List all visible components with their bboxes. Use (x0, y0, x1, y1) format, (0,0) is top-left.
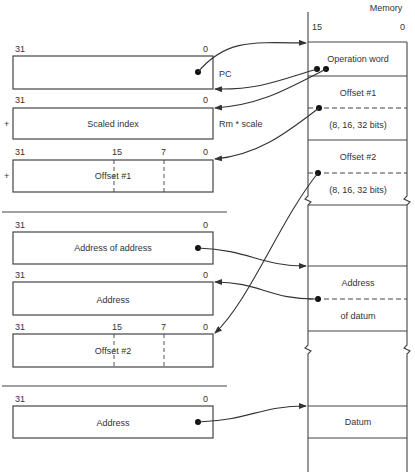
addressing-mode-diagram: Memory 15 0 Operation word Offset #1 (8,… (0, 0, 415, 475)
offset1-bit-15: 15 (112, 147, 122, 157)
memory-bit-low: 0 (400, 22, 405, 32)
aoa-bit-low: 0 (203, 220, 208, 230)
aoa-bit-high: 31 (15, 220, 25, 230)
offset1-bit-7: 7 (161, 147, 166, 157)
register-final-address: 31 0 Address (13, 394, 213, 438)
memory-bit-high: 15 (312, 22, 322, 32)
register-offset1: 31 15 7 0 + Offset #1 (4, 147, 213, 192)
memory-column: Memory 15 0 Operation word Offset #1 (8,… (305, 3, 410, 472)
register-address-of-address: 31 0 Address of address (13, 220, 213, 264)
offset1-bit-low: 0 (203, 147, 208, 157)
rm-scale-label: Rm * scale (219, 119, 263, 129)
scaled-index-bit-low: 0 (203, 95, 208, 105)
memory-cell-datum: Datum (345, 417, 372, 427)
memory-cell-address-of-datum-bottom: of datum (340, 311, 375, 321)
address-bit-high: 31 (15, 270, 25, 280)
pointer-arrows (195, 43, 329, 425)
arrow-pc-to-memory (198, 43, 306, 72)
arrow-memory-to-address (215, 282, 318, 299)
memory-left-wall (305, 12, 311, 472)
offset1-label: Offset #1 (95, 171, 131, 181)
arrow-aoa-to-memory (198, 248, 306, 266)
final-address-label: Address (96, 418, 130, 428)
scaled-index-label: Scaled index (87, 119, 139, 129)
memory-cell-offset1-bottom: (8, 16, 32 bits) (329, 120, 387, 130)
memory-cell-offset2-top: Offset #2 (340, 152, 376, 162)
offset1-bit-high: 31 (15, 147, 25, 157)
scaled-index-plus: + (4, 119, 9, 129)
scaled-index-bit-high: 31 (15, 95, 25, 105)
offset1-plus: + (4, 171, 9, 181)
address-label: Address (96, 295, 130, 305)
offset2-label: Offset #2 (95, 346, 131, 356)
register-address: 31 0 Address (13, 270, 213, 315)
memory-cell-address-of-datum-top: Address (341, 278, 375, 288)
pc-bit-low: 0 (203, 44, 208, 54)
register-pc: 31 0 PC (13, 44, 232, 89)
offset2-bit-high: 31 (15, 322, 25, 332)
memory-cell-offset1-top: Offset #1 (340, 88, 376, 98)
arrow-offset1 (215, 108, 319, 159)
memory-right-wall (404, 42, 410, 472)
final-address-bit-high: 31 (15, 394, 25, 404)
offset2-bit-7: 7 (161, 322, 166, 332)
offset2-bit-15: 15 (112, 322, 122, 332)
memory-cell-operation-word: Operation word (327, 54, 389, 64)
pc-bit-high: 31 (15, 44, 25, 54)
offset2-bit-low: 0 (203, 322, 208, 332)
arrow-address-to-datum (198, 406, 306, 422)
register-scaled-index: 31 0 + Scaled index Rm * scale (4, 95, 263, 139)
aoa-label: Address of address (74, 243, 152, 253)
address-bit-low: 0 (203, 270, 208, 280)
arrow-offset2 (215, 173, 318, 333)
memory-title: Memory (370, 3, 403, 13)
memory-cell-offset2-bottom: (8, 16, 32 bits) (329, 185, 387, 195)
register-offset2: 31 15 7 0 Offset #2 (13, 322, 213, 367)
pc-label: PC (219, 69, 232, 79)
final-address-bit-low: 0 (203, 394, 208, 404)
